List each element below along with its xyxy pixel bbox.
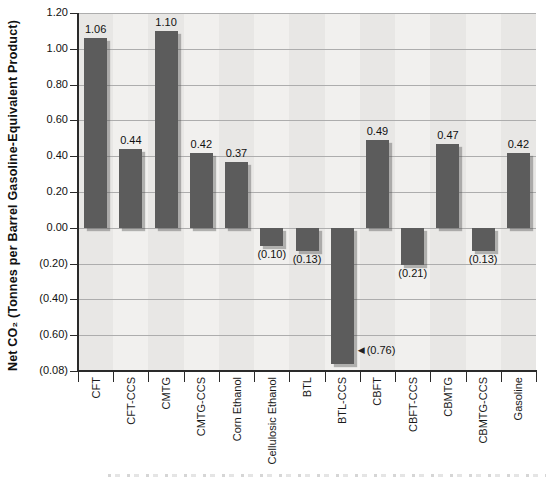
x-axis-label-gasoline: Gasoline	[512, 377, 525, 420]
y-tick-label: 1.20	[20, 6, 68, 18]
bar-cbft-ccs	[401, 228, 424, 266]
bar-value-label: 0.49	[367, 125, 388, 137]
gridline	[78, 156, 536, 157]
x-axis-label-cellulosic-ethanol: Cellulosic Ethanol	[266, 377, 279, 464]
bar-cmtg	[155, 31, 178, 228]
bar-value-label: 0.42	[508, 138, 529, 150]
bar-cbmtg-ccs	[472, 228, 495, 251]
y-tick-label: 1.00	[20, 42, 68, 54]
x-tick	[430, 372, 431, 382]
x-tick	[184, 372, 185, 382]
y-tick-label: 0.20	[20, 185, 68, 197]
x-axis-label-cbft-ccs: CBFT-CCS	[407, 377, 420, 432]
x-axis-label-btl-ccs: BTL-CCS	[336, 377, 349, 424]
bar-value-label: (0.13)	[469, 253, 498, 265]
x-tick	[148, 372, 149, 382]
callout-label: ◀(0.76)	[358, 344, 396, 356]
y-tick	[70, 13, 77, 14]
bar-btl	[296, 228, 319, 251]
x-tick	[219, 372, 220, 382]
y-axis-line	[77, 13, 79, 372]
x-axis-label-cft-ccs: CFT-CCS	[125, 377, 138, 425]
bar-cbmtg	[436, 144, 459, 228]
bar-value-label: 1.10	[155, 16, 176, 28]
x-tick	[466, 372, 467, 382]
x-axis-label-corn-ethanol: Corn Ethanol	[231, 377, 244, 441]
x-tick	[113, 372, 114, 382]
y-tick	[70, 299, 77, 300]
x-axis-label-cmtg-ccs: CMTG-CCS	[195, 377, 208, 436]
y-tick	[70, 264, 77, 265]
x-axis-label-cft: CFT	[90, 377, 103, 398]
gridline	[78, 192, 536, 193]
x-tick	[78, 372, 79, 382]
bar-value-label: 0.47	[437, 129, 458, 141]
bar-btl-ccs	[331, 228, 354, 364]
bar-value-label: (0.21)	[398, 267, 427, 279]
gridline	[78, 120, 536, 121]
cropped-caption-fragment	[108, 474, 546, 477]
x-axis-label-cbmtg: CBMTG	[442, 377, 455, 417]
gridline	[78, 299, 536, 300]
bar-value-label: 0.37	[226, 147, 247, 159]
bar-value-label: 0.44	[120, 134, 141, 146]
y-tick-label: (0.08)	[20, 364, 68, 376]
y-tick	[70, 192, 77, 193]
gridline	[78, 85, 536, 86]
plot-area: 1.060.441.100.420.37(0.10)(0.13)◀(0.76)0…	[78, 13, 536, 371]
bar-cft	[84, 38, 107, 228]
y-tick-label: 0.80	[20, 78, 68, 90]
bar-gasoline	[507, 153, 530, 228]
bar-cellulosic-ethanol	[260, 228, 283, 246]
y-tick-label: (0.40)	[20, 292, 68, 304]
y-tick	[70, 335, 77, 336]
gridline	[78, 13, 536, 14]
left-triangle-icon: ◀	[358, 345, 365, 355]
y-tick-label: (0.20)	[20, 257, 68, 269]
bar-cft-ccs	[119, 149, 142, 228]
gridline	[78, 335, 536, 336]
x-tick	[325, 372, 326, 382]
bar-value-label: (0.10)	[257, 248, 286, 260]
y-tick	[70, 85, 77, 86]
y-tick	[70, 120, 77, 121]
y-tick-label: 0.00	[20, 221, 68, 233]
x-tick	[395, 372, 396, 382]
bar-value-label: 1.06	[85, 23, 106, 35]
x-tick	[360, 372, 361, 382]
x-axis-label-cbft: CBFT	[371, 377, 384, 406]
y-tick	[70, 156, 77, 157]
y-tick	[70, 49, 77, 50]
y-tick-label: 0.60	[20, 113, 68, 125]
y-tick	[70, 228, 77, 229]
x-axis-label-cbmtg-ccs: CBMTG-CCS	[477, 377, 490, 444]
bar-value-label: (0.13)	[293, 253, 322, 265]
y-tick	[70, 371, 77, 372]
y-tick-label: 0.40	[20, 149, 68, 161]
bar-cmtg-ccs	[190, 153, 213, 228]
bar-chart: Net CO₂ (Tonnes per Barrel Gasoline-Equi…	[0, 0, 555, 480]
y-tick-label: (0.60)	[20, 328, 68, 340]
bar-cbft	[366, 140, 389, 228]
x-axis-label-btl: BTL	[301, 377, 314, 397]
bar-value-label: (0.76)	[367, 344, 396, 356]
x-tick	[536, 372, 537, 382]
bar-value-label: 0.42	[191, 138, 212, 150]
x-tick	[501, 372, 502, 382]
gridline	[78, 49, 536, 50]
bar-corn-ethanol	[225, 162, 248, 228]
x-axis-line	[77, 370, 537, 372]
x-axis-label-cmtg: CMTG	[160, 377, 173, 409]
x-tick	[254, 372, 255, 382]
x-tick	[289, 372, 290, 382]
